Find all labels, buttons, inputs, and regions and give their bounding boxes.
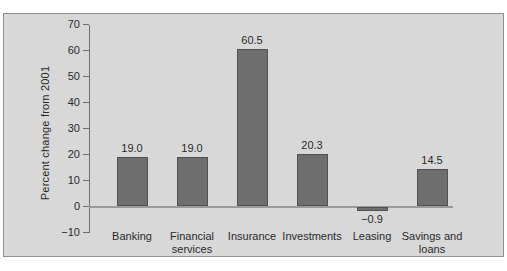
y-tick-label: 70 — [48, 18, 80, 31]
bar — [297, 154, 328, 207]
y-tick-label: 20 — [48, 148, 80, 161]
category-label: Savings and loans — [395, 230, 469, 256]
bar — [177, 157, 208, 206]
y-tick-mark — [83, 24, 89, 25]
y-tick-label: 60 — [48, 44, 80, 57]
y-tick-mark — [83, 128, 89, 129]
bar-value-label: 19.0 — [170, 142, 214, 155]
y-tick-label: 40 — [48, 96, 80, 109]
y-tick-label: 30 — [48, 122, 80, 135]
bar-value-label: 14.5 — [410, 154, 454, 167]
y-tick-mark — [83, 50, 89, 51]
bar-value-label: −0.9 — [350, 213, 394, 226]
bar-value-label: 19.0 — [110, 142, 154, 155]
bar — [117, 157, 148, 206]
bar — [357, 207, 388, 211]
y-tick-mark — [83, 232, 89, 233]
y-tick-label: 0 — [48, 200, 80, 213]
figure-page: Percent change from 2001 706050403020100… — [0, 0, 507, 271]
bar-chart-panel: Percent change from 2001 706050403020100… — [3, 13, 504, 257]
y-axis-line — [89, 25, 90, 233]
bar-value-label: 20.3 — [290, 139, 334, 152]
bar — [237, 49, 268, 206]
y-tick-mark — [83, 76, 89, 77]
bar-value-label: 60.5 — [230, 34, 274, 47]
y-tick-label: 50 — [48, 70, 80, 83]
bar — [417, 169, 448, 207]
y-tick-mark — [83, 102, 89, 103]
y-tick-label: −10 — [48, 226, 80, 239]
y-tick-label: 10 — [48, 174, 80, 187]
y-tick-mark — [83, 180, 89, 181]
y-tick-mark — [83, 154, 89, 155]
plot-area: 706050403020100−1019.0Banking19.0Financi… — [4, 14, 503, 256]
